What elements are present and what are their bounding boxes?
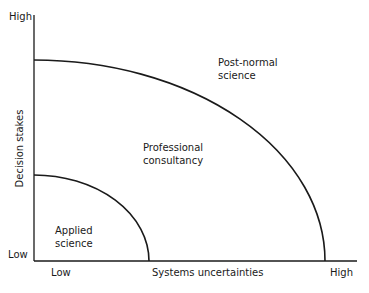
region-label-line1: Professional bbox=[143, 141, 203, 154]
region-label-line2: consultancy bbox=[143, 154, 203, 167]
y-axis-title: Decision stakes bbox=[14, 104, 25, 194]
region-post-normal-science: Post-normal science bbox=[218, 56, 278, 82]
region-applied-science: Applied science bbox=[55, 224, 93, 250]
y-axis-high-label: High bbox=[9, 10, 32, 23]
region-professional-consultancy: Professional consultancy bbox=[143, 141, 203, 167]
x-axis-low-label: Low bbox=[51, 266, 71, 279]
x-axis-high-label: High bbox=[330, 266, 353, 279]
region-label-line2: science bbox=[218, 69, 278, 82]
region-label-line1: Post-normal bbox=[218, 56, 278, 69]
y-axis-low-label: Low bbox=[8, 248, 28, 261]
region-label-line1: Applied bbox=[55, 224, 93, 237]
x-axis-title: Systems uncertainties bbox=[152, 266, 263, 279]
region-label-line2: science bbox=[55, 237, 93, 250]
